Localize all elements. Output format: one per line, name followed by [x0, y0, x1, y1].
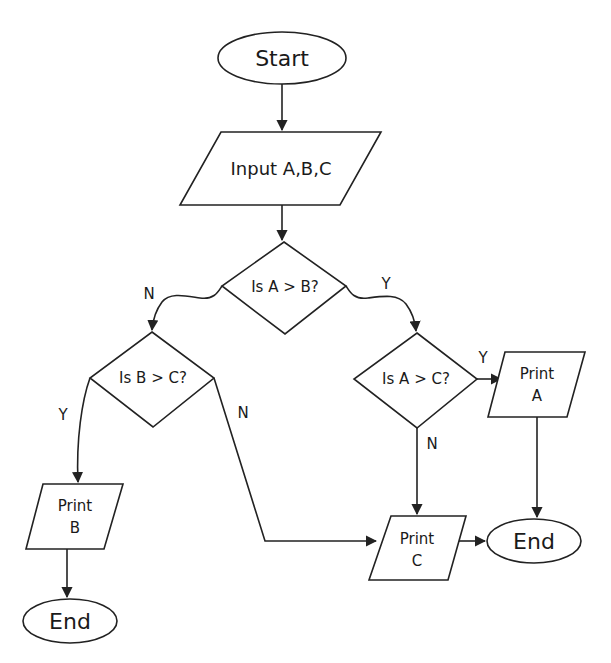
node-decision-ab[interactable]: Is A > B? — [222, 242, 346, 334]
node-decision-bc[interactable]: Is B > C? — [90, 332, 214, 427]
node-print-a[interactable]: Print A — [488, 352, 585, 417]
node-decision-ac-label: Is A > C? — [382, 370, 450, 388]
node-decision-ac[interactable]: Is A > C? — [354, 333, 477, 428]
node-input[interactable]: Input A,B,C — [180, 132, 381, 205]
parallelogram-shape — [26, 484, 123, 549]
flowchart-canvas: N Y Y N Y N Start Input A,B,C Is A > B? … — [0, 0, 611, 663]
label-ab-no: N — [143, 285, 154, 303]
parallelogram-shape — [488, 352, 585, 417]
parallelogram-shape — [369, 516, 466, 580]
node-input-label: Input A,B,C — [230, 158, 331, 179]
label-ab-yes: Y — [380, 275, 391, 293]
edge-decision-ab-no — [152, 286, 222, 330]
node-print-a-line2: A — [532, 387, 543, 405]
node-start-label: Start — [255, 46, 309, 71]
label-bc-yes: Y — [57, 406, 68, 424]
edge-decision-bc-yes — [78, 378, 90, 482]
node-decision-bc-label: Is B > C? — [119, 369, 187, 387]
node-decision-ab-label: Is A > B? — [251, 278, 319, 296]
node-end-left[interactable]: End — [23, 599, 117, 643]
edge-decision-bc-no — [214, 378, 376, 541]
label-bc-no: N — [237, 404, 248, 422]
node-print-b[interactable]: Print B — [26, 484, 123, 549]
node-end-left-label: End — [49, 609, 91, 634]
node-print-c-line1: Print — [400, 530, 435, 548]
label-ac-no: N — [426, 435, 437, 453]
node-print-b-line1: Print — [58, 497, 93, 515]
node-end-right-label: End — [513, 529, 555, 554]
node-print-c[interactable]: Print C — [369, 516, 466, 580]
node-start[interactable]: Start — [218, 32, 346, 84]
node-print-c-line2: C — [412, 552, 422, 570]
node-end-right[interactable]: End — [487, 519, 581, 563]
node-print-a-line1: Print — [520, 365, 555, 383]
label-ac-yes: Y — [477, 349, 488, 367]
node-print-b-line2: B — [70, 519, 80, 537]
